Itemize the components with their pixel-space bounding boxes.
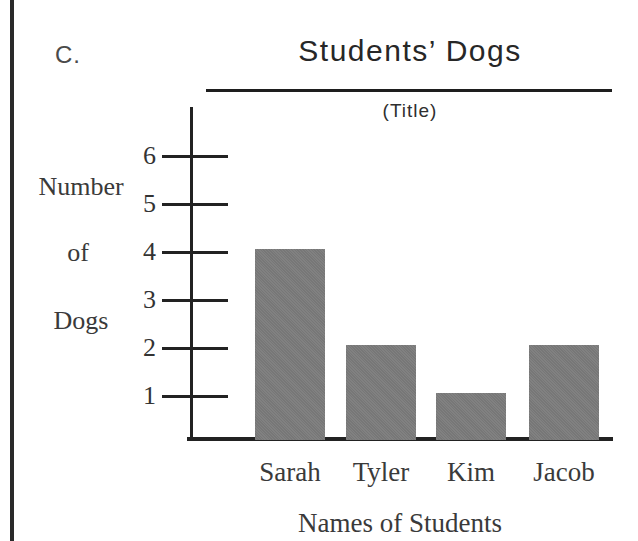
y-tick-line: [162, 251, 228, 254]
x-tick-label: Sarah: [244, 457, 336, 488]
bar-tyler: [346, 345, 416, 440]
worksheet-page: C. Students’ Dogs (Title) 123456SarahTyl…: [0, 0, 638, 541]
y-tick-line: [162, 155, 228, 158]
bar-kim: [436, 393, 506, 440]
y-tick-label: 6: [116, 141, 156, 171]
y-tick-line: [162, 203, 228, 206]
bar-chart: 123456SarahTylerKimJacobNumberofDogs: [0, 0, 638, 541]
bar-jacob: [529, 345, 599, 440]
y-tick-line: [162, 299, 228, 302]
x-axis-title: Names of Students: [250, 508, 550, 539]
y-tick-line: [162, 395, 228, 398]
bar-sarah: [255, 249, 325, 440]
y-tick-line: [162, 347, 228, 350]
y-axis-title-word: Number: [21, 172, 141, 202]
y-tick-label: 1: [116, 381, 156, 411]
y-tick-label: 2: [116, 333, 156, 363]
y-axis-title-word: Dogs: [21, 306, 141, 336]
x-tick-label: Kim: [425, 457, 517, 488]
x-tick-label: Tyler: [335, 457, 427, 488]
x-tick-label: Jacob: [518, 457, 610, 488]
y-axis-title-word: of: [18, 238, 138, 268]
